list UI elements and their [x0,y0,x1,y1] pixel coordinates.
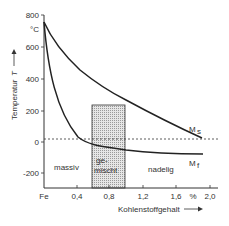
mf-label-sub: f [197,161,200,170]
mf-label: M [189,159,196,168]
x-tick-fe: Fe [39,192,49,201]
x-unit: % [189,192,196,201]
x-tick-1.6: 1,6 [170,192,182,201]
mixed-region [92,105,125,188]
region-gemischt-1: ge- [96,156,108,165]
svg-text:Temperatur: Temperatur [10,79,19,120]
y-tick-minus200: -200 [23,169,40,178]
y-tick-400: 400 [26,75,40,84]
svg-text:T: T [10,70,19,76]
y-tick-800: 800 [26,11,40,20]
x-axis-label: Kohlenstoffgehalt [118,205,180,214]
region-massiv: massiv [54,163,79,172]
y-tick-0: 0 [35,138,40,147]
ms-label-sub: s [197,127,201,136]
x-axis-arrow [184,207,203,212]
y-tick-200: 200 [26,107,40,116]
x-tick-2.0: 2,0 [204,192,216,201]
x-tick-0.8: 0,8 [103,192,115,201]
ms-label: M [189,125,196,134]
x-tick-0.4: 0,4 [71,192,83,201]
y-tick-600: 600 [26,43,40,52]
y-unit: °C [30,25,39,34]
chart: 800 °C 600 400 200 0 -200 Temperatur T F… [0,0,229,226]
region-nadelig: nadelig [148,165,174,174]
region-gemischt-2: mischt [94,166,118,175]
y-axis-label: Temperatur T [10,49,19,120]
x-tick-1.2: 1,2 [137,192,149,201]
